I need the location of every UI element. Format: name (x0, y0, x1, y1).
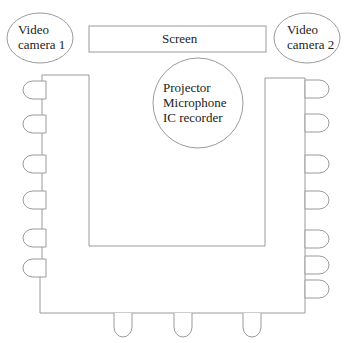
video-camera-1-line1: Video (18, 22, 65, 37)
screen-label-text: Screen (162, 31, 197, 46)
seat-left-5 (23, 229, 46, 247)
video-camera-1-line2: camera 1 (18, 37, 65, 52)
center-equipment-line2: Microphone (163, 95, 227, 110)
video-camera-2-label: Video camera 2 (287, 22, 334, 52)
meeting-room-diagram: Video camera 1 Screen Video camera 2 Pro… (0, 0, 351, 343)
screen-label: Screen (162, 31, 197, 46)
seat-right-4 (305, 191, 329, 209)
seat-bottom-1 (114, 313, 132, 337)
seat-left-1 (23, 81, 46, 99)
center-equipment-line3: IC recorder (163, 110, 227, 125)
seat-left-6 (23, 259, 46, 277)
video-camera-2-line1: Video (287, 22, 334, 37)
seat-left-3 (23, 155, 46, 173)
seat-left-2 (23, 115, 46, 133)
center-equipment-label: Projector Microphone IC recorder (163, 80, 227, 125)
seat-bottom-3 (243, 313, 261, 337)
video-camera-1-label: Video camera 1 (18, 22, 65, 52)
seat-right-7 (305, 280, 329, 298)
left-seats (23, 81, 46, 277)
seat-right-5 (305, 230, 329, 248)
seat-bottom-2 (174, 313, 192, 337)
seat-right-6 (305, 256, 329, 274)
right-seats (305, 80, 329, 298)
seat-right-2 (305, 114, 329, 132)
video-camera-2-line2: camera 2 (287, 37, 334, 52)
seat-left-4 (23, 191, 46, 209)
bottom-seats (114, 313, 261, 337)
seat-right-3 (305, 155, 329, 173)
center-equipment-line1: Projector (163, 80, 227, 95)
seat-right-1 (305, 80, 329, 98)
